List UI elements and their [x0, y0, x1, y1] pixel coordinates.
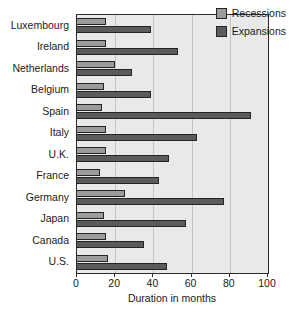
bar-expansions-spain: [77, 112, 251, 119]
bar-recessions-germany: [77, 190, 125, 197]
bar-expansions-u-k: [77, 155, 169, 162]
category-label: Spain: [0, 100, 73, 122]
bar-recessions-u-k: [77, 147, 106, 154]
bar-chart-figure: LuxembourgIrelandNetherlandsBelgiumSpain…: [0, 0, 293, 325]
bar-expansions-france: [77, 177, 159, 184]
legend-swatch-recessions-icon: [216, 8, 227, 19]
category-label: Belgium: [0, 79, 73, 101]
bar-group: [77, 144, 268, 166]
x-tick-label: 100: [258, 278, 276, 289]
bar-group: [77, 58, 268, 80]
bar-group: [77, 37, 268, 59]
x-axis-title: Duration in months: [76, 292, 268, 304]
bar-expansions-germany: [77, 198, 224, 205]
x-tick-label: 40: [147, 278, 159, 289]
bar-recessions-japan: [77, 212, 104, 219]
bar-recessions-netherlands: [77, 61, 115, 68]
category-label: Italy: [0, 122, 73, 144]
legend-swatch-expansions-icon: [216, 26, 227, 37]
bar-recessions-france: [77, 169, 100, 176]
bar-expansions-ireland: [77, 48, 178, 55]
bar-recessions-canada: [77, 233, 106, 240]
bar-group: [77, 187, 268, 209]
bar-recessions-ireland: [77, 40, 106, 47]
bar-group: [77, 166, 268, 188]
legend-label-expansions: Expansions: [232, 26, 286, 37]
bar-recessions-belgium: [77, 83, 104, 90]
bar-groups: [77, 15, 268, 273]
bar-expansions-luxembourg: [77, 26, 151, 33]
bar-group: [77, 252, 268, 274]
bar-recessions-spain: [77, 104, 102, 111]
bar-group: [77, 123, 268, 145]
category-axis-labels: LuxembourgIrelandNetherlandsBelgiumSpain…: [0, 14, 73, 272]
bar-expansions-u-s: [77, 263, 167, 270]
bar-group: [77, 209, 268, 231]
category-label: Netherlands: [0, 57, 73, 79]
x-tick-label: 80: [223, 278, 235, 289]
category-label: Japan: [0, 208, 73, 230]
bar-expansions-netherlands: [77, 69, 132, 76]
bar-expansions-belgium: [77, 91, 151, 98]
bar-expansions-japan: [77, 220, 186, 227]
x-tick-label: 60: [185, 278, 197, 289]
category-label: U.K.: [0, 143, 73, 165]
category-label: U.S.: [0, 251, 73, 273]
category-label: Canada: [0, 229, 73, 251]
bar-recessions-u-s: [77, 255, 108, 262]
bar-recessions-italy: [77, 126, 106, 133]
x-tick-label: 20: [108, 278, 120, 289]
bar-recessions-luxembourg: [77, 18, 106, 25]
category-label: France: [0, 165, 73, 187]
category-label: Luxembourg: [0, 14, 73, 36]
category-label: Ireland: [0, 36, 73, 58]
legend-entry-expansions: Expansions: [216, 26, 286, 37]
bar-group: [77, 230, 268, 252]
bar-group: [77, 101, 268, 123]
legend-entry-recessions: Recessions: [216, 8, 286, 19]
legend-label-recessions: Recessions: [232, 8, 286, 19]
chart-legend: Recessions Expansions: [216, 8, 286, 37]
x-tick-label: 0: [73, 278, 79, 289]
category-label: Germany: [0, 186, 73, 208]
plot-area: [76, 14, 269, 274]
bar-expansions-canada: [77, 241, 144, 248]
bar-expansions-italy: [77, 134, 197, 141]
bar-group: [77, 80, 268, 102]
